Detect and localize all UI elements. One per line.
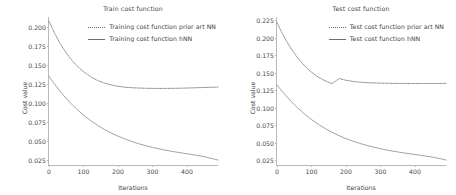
y-axis-tick-mark — [47, 122, 49, 123]
legend: Training cost function prior art NNTrain… — [88, 23, 216, 42]
y-axis-tick-mark — [275, 108, 277, 109]
y-axis-label: Cost value — [21, 81, 28, 114]
plot-area: Training cost function prior art NNTrain… — [48, 17, 218, 166]
y-axis-tick-label: 0.150 — [256, 69, 274, 76]
y-axis-tick-label: 0.125 — [28, 81, 46, 88]
legend-item[interactable]: Training cost function prior art NN — [88, 23, 216, 30]
y-axis-tick-mark — [47, 103, 49, 104]
x-axis-tick-mark — [49, 165, 50, 167]
y-axis-tick-mark — [47, 46, 49, 47]
y-axis-tick-mark — [47, 84, 49, 85]
x-axis-tick-label: 100 — [78, 168, 90, 175]
x-axis-tick-label: 200 — [340, 168, 352, 175]
legend-line-swatch-icon — [329, 24, 346, 29]
x-axis-tick-label: 400 — [181, 168, 193, 175]
x-axis-tick-label: 0 — [275, 168, 279, 175]
y-axis-tick-mark — [275, 90, 277, 91]
y-axis-tick-mark — [47, 27, 49, 28]
y-axis-tick-label: 0.200 — [256, 34, 274, 41]
y-axis-tick-label: 0.175 — [28, 43, 46, 50]
y-axis-tick-label: 0.100 — [28, 100, 46, 107]
plot-area: Test cost function prior art NNTest cost… — [276, 17, 446, 166]
x-axis-tick-mark — [83, 165, 84, 167]
y-axis-tick-label: 0.050 — [256, 139, 274, 146]
y-axis-tick-mark — [275, 20, 277, 21]
legend-line-swatch-icon — [88, 36, 105, 41]
x-axis-tick-label: 200 — [112, 168, 124, 175]
x-axis-tick-label: 400 — [409, 168, 421, 175]
legend-line-swatch-icon — [329, 36, 346, 41]
y-axis-tick-mark — [47, 160, 49, 161]
y-axis-label: Cost value — [249, 81, 256, 114]
x-axis-tick-label: 300 — [375, 168, 387, 175]
y-axis-tick-mark — [275, 73, 277, 74]
y-axis-tick-mark — [47, 65, 49, 66]
x-axis-tick-mark — [277, 165, 278, 167]
legend-line-swatch-icon — [88, 24, 105, 29]
legend: Test cost function prior art NNTest cost… — [329, 23, 444, 42]
y-axis-tick-label: 0.125 — [256, 87, 274, 94]
x-axis-label: Iterations — [48, 184, 218, 191]
legend-item[interactable]: Test cost function hNN — [329, 35, 420, 42]
x-axis-tick-mark — [118, 165, 119, 167]
legend-item[interactable]: Training cost function hNN — [88, 35, 192, 42]
y-axis-tick-label: 0.100 — [256, 104, 274, 111]
y-axis-tick-label: 0.175 — [256, 52, 274, 59]
y-axis-tick-mark — [275, 160, 277, 161]
panel-train-cost-function: Train cost function Cost value Iteration… — [0, 0, 228, 195]
x-axis-tick-label: 100 — [306, 168, 318, 175]
panel-title: Train cost function — [48, 5, 218, 12]
x-axis-tick-mark — [187, 165, 188, 167]
y-axis-tick-mark — [275, 38, 277, 39]
y-axis-tick-label: 0.225 — [256, 17, 274, 24]
legend-item-label: Training cost function hNN — [109, 35, 192, 42]
y-axis-tick-label: 0.075 — [28, 119, 46, 126]
y-axis-tick-label: 0.200 — [28, 24, 46, 31]
y-axis-tick-label: 0.150 — [28, 62, 46, 69]
figure: Train cost function Cost value Iteration… — [0, 0, 456, 195]
x-axis-tick-mark — [311, 165, 312, 167]
x-axis-tick-mark — [346, 165, 347, 167]
x-axis-tick-label: 0 — [47, 168, 51, 175]
x-axis-label: Iterations — [276, 184, 446, 191]
x-axis-tick-mark — [415, 165, 416, 167]
y-axis-tick-label: 0.025 — [28, 157, 46, 164]
y-axis-tick-mark — [275, 125, 277, 126]
legend-item[interactable]: Test cost function prior art NN — [329, 23, 444, 30]
legend-item-label: Test cost function prior art NN — [350, 23, 444, 30]
data-series-line — [277, 85, 446, 160]
y-axis-tick-label: 0.050 — [28, 138, 46, 145]
y-axis-tick-mark — [47, 141, 49, 142]
y-axis-tick-mark — [275, 55, 277, 56]
x-axis-tick-mark — [152, 165, 153, 167]
legend-item-label: Training cost function prior art NN — [109, 23, 216, 30]
panel-test-cost-function: Test cost function Cost value Iterations… — [228, 0, 456, 195]
y-axis-tick-label: 0.075 — [256, 122, 274, 129]
data-series-line — [49, 76, 218, 160]
legend-item-label: Test cost function hNN — [350, 35, 420, 42]
y-axis-tick-label: 0.025 — [256, 157, 274, 164]
panel-title: Test cost function — [276, 5, 446, 12]
x-axis-tick-label: 300 — [147, 168, 159, 175]
y-axis-tick-mark — [275, 143, 277, 144]
x-axis-tick-mark — [380, 165, 381, 167]
